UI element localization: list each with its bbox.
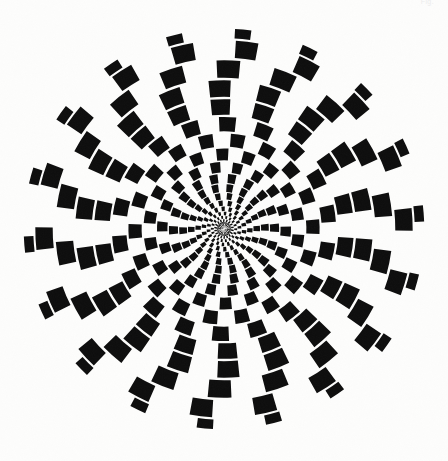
checker-cell — [353, 238, 372, 261]
corner-mark-label: Fig. — [421, 0, 434, 6]
checker-cell — [235, 41, 259, 61]
checker-cell — [216, 148, 228, 160]
checker-cell — [413, 205, 424, 222]
checker-cell — [76, 197, 95, 220]
checker-cell — [197, 418, 214, 429]
checker-cell — [319, 205, 336, 223]
checker-cell — [372, 192, 393, 217]
checker-cell — [234, 228, 237, 230]
checker-cell — [217, 60, 241, 78]
checker-cell — [190, 397, 214, 417]
checker-cell — [394, 208, 412, 231]
checker-cell — [56, 241, 76, 266]
checker-cell — [218, 343, 238, 359]
checker-cell — [195, 225, 201, 229]
checker-cell — [188, 227, 195, 233]
checker-cell — [179, 227, 187, 234]
checker-cell — [235, 29, 252, 40]
checker-cell — [94, 200, 112, 221]
checker-cell — [169, 226, 178, 235]
checker-cell — [208, 380, 232, 398]
checker-cell — [208, 80, 230, 97]
spiral-checkerboard-figure — [0, 0, 448, 461]
checker-cell — [247, 228, 253, 232]
checker-cell — [261, 224, 269, 231]
checker-cell — [219, 297, 231, 309]
checker-cell — [211, 228, 214, 230]
checker-cell — [128, 224, 142, 239]
checker-cell — [280, 226, 291, 236]
artboard: Fig. — [0, 0, 448, 461]
checker-cell — [270, 223, 279, 232]
checker-cell — [212, 326, 229, 341]
checker-cell — [336, 237, 354, 258]
checker-cell — [223, 247, 226, 252]
checker-cell — [157, 221, 168, 231]
checker-cell — [221, 207, 224, 212]
checker-cell — [210, 99, 230, 115]
checker-cell — [24, 236, 35, 253]
checker-cell — [35, 227, 53, 250]
checker-cell — [219, 117, 236, 132]
checker-cell — [112, 235, 129, 253]
checker-cell — [306, 219, 320, 234]
checker-cell — [217, 361, 239, 378]
checker-cell — [253, 226, 260, 232]
